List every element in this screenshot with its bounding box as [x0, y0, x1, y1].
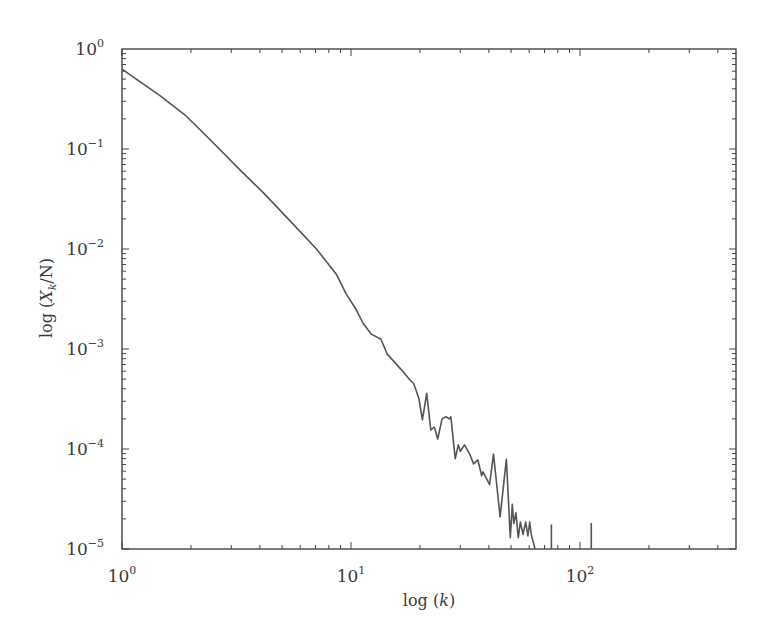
x-tick-labels: 100101102 [108, 564, 595, 586]
x-tick-label: 100 [108, 564, 137, 586]
y-tick-labels: 10010−110−210−310−410−5 [66, 37, 104, 559]
y-tick-label: 10−2 [66, 237, 104, 259]
y-tick-label: 100 [75, 37, 104, 59]
x-tick-label: 101 [337, 564, 366, 586]
axis-ticks [122, 49, 736, 549]
x-axis-label: log (k) [403, 591, 455, 610]
y-tick-label: 10−5 [66, 537, 104, 559]
y-axis-label: log (Xk/N) [37, 258, 59, 338]
y-tick-label: 10−1 [66, 137, 104, 159]
x-tick-label: 102 [566, 564, 595, 586]
plot-frame [122, 49, 736, 549]
y-tick-label: 10−3 [66, 337, 104, 359]
y-tick-label: 10−4 [66, 437, 104, 459]
chart: 10010−110−210−310−410−5 100101102 log (k… [0, 0, 771, 638]
data-line [122, 69, 535, 549]
